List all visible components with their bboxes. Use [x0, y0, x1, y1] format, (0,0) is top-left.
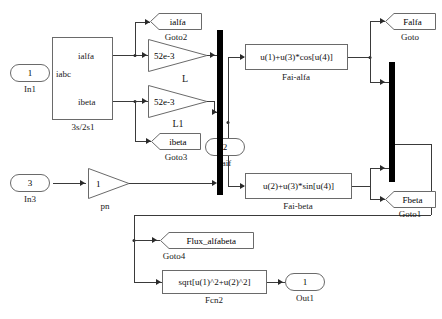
- fcn-block-fcn2-expr: sqrt[u(1)^2+u(2)^2]: [178, 277, 250, 287]
- output-port-out1-label: Out1: [296, 293, 314, 303]
- arrow-mux2-in1: [380, 79, 385, 85]
- goto-tag-fbeta-text: Fbeta: [403, 195, 423, 205]
- gain-L-label: L: [182, 74, 188, 84]
- gain-L-value: 52e-3: [154, 51, 175, 61]
- fcn-block-fai-beta-expr: u(2)+u(3)*sin[u(4)]: [263, 181, 334, 191]
- fcn-block-fai-alfa[interactable]: u(1)+u(3)*cos[u(4)]: [245, 44, 348, 70]
- mux-block-1[interactable]: [217, 30, 223, 195]
- goto-tag-flux-alfabeta-text: Flux_alfabeta: [187, 236, 236, 246]
- wire-falfa-down: [370, 57, 371, 82]
- subsystem-label: 3s/2s1: [71, 122, 94, 132]
- goto-tag-flux-alfabeta[interactable]: Flux_alfabeta: [160, 232, 254, 249]
- input-port-in3-number: 3: [28, 178, 33, 188]
- wire-faibeta-out: [352, 186, 370, 187]
- wire-feedback-v: [134, 215, 135, 240]
- gain-L1-value: 52e-3: [154, 97, 175, 107]
- goto-tag-ibeta-text: ibeta: [169, 137, 187, 147]
- arrow-mux2-in2: [380, 165, 385, 171]
- gain-block-L[interactable]: 52e-3: [148, 39, 208, 72]
- gain-block-pn[interactable]: 1: [88, 168, 130, 199]
- output-port-out1[interactable]: 1: [285, 273, 325, 291]
- fcn-block-fcn2[interactable]: sqrt[u(1)^2+u(2)^2]: [162, 270, 267, 294]
- input-port-in1-label: In1: [24, 84, 36, 94]
- gain-pn-value: 1: [96, 179, 101, 189]
- gain-L1-label: L1: [172, 119, 183, 129]
- input-port-faif-number: 2: [223, 142, 228, 152]
- subsystem-port-ibeta: ibeta: [78, 97, 96, 107]
- arrow-gain-L1: [142, 98, 147, 104]
- wire-ibeta-down: [135, 101, 136, 141]
- goto-label: Goto: [401, 32, 419, 42]
- wire-falfa-up: [370, 21, 371, 57]
- arrow-gain-L: [142, 52, 147, 58]
- fcn-block-fai-alfa-expr: u(1)+u(3)*cos[u(4)]: [260, 52, 333, 62]
- wire-ialfa-up: [135, 22, 136, 55]
- arrow-pn: [80, 180, 85, 186]
- input-port-in3[interactable]: 3: [10, 174, 50, 192]
- output-port-out1-number: 1: [303, 277, 308, 287]
- wire-feedback-h: [134, 215, 431, 216]
- arrow-out1: [278, 279, 283, 285]
- fcn-block-fai-beta-label: Fai-beta: [283, 201, 313, 211]
- fcn-block-fai-beta[interactable]: u(2)+u(3)*sin[u(4)]: [245, 173, 352, 199]
- input-port-faif[interactable]: 2: [205, 138, 245, 156]
- gain-block-L1[interactable]: 52e-3: [148, 85, 208, 118]
- mux-block-2[interactable]: [389, 62, 395, 182]
- goto-tag-falfa-text: Falfa: [403, 17, 422, 27]
- wire-pn-to-mux: [128, 183, 215, 184]
- subsystem-port-iabc: iabc: [56, 69, 71, 79]
- wire-down-to-fcn2: [134, 240, 135, 282]
- wire-faialfa-out: [348, 57, 370, 58]
- fcn-block-fai-alfa-label: Fai-alfa: [282, 72, 310, 82]
- wire-fbeta-up: [370, 168, 371, 186]
- goto-tag-fbeta[interactable]: Fbeta: [385, 191, 436, 208]
- arrow-mux-in1: [210, 52, 215, 58]
- goto-tag-ialfa-text: ialfa: [170, 17, 186, 27]
- input-port-in3-label: In3: [24, 194, 36, 204]
- fcn-block-fcn2-label: Fcn2: [205, 295, 223, 305]
- goto4-label: Goto4: [163, 251, 186, 261]
- goto-tag-ibeta[interactable]: ibeta: [151, 133, 201, 150]
- wire-mux2-out-h: [395, 144, 431, 145]
- subsystem-port-ialfa: ialfa: [78, 51, 94, 61]
- goto-tag-ialfa[interactable]: ialfa: [150, 13, 202, 30]
- arrow-goto4: [152, 237, 157, 243]
- input-port-in1[interactable]: 1: [10, 64, 50, 82]
- goto1-label: Goto1: [399, 209, 422, 219]
- wire-mux1-out-v: [228, 57, 229, 122]
- block-diagram-canvas: 1 In1 iabc ialfa ibeta 3s/2s1 ialfa Goto…: [0, 0, 442, 319]
- wire-fbeta-down: [370, 186, 371, 199]
- arrow-fcn2-in: [156, 279, 161, 285]
- gain-pn-label: pn: [101, 201, 110, 211]
- input-port-in1-number: 1: [28, 68, 33, 78]
- goto3-label: Goto3: [165, 152, 188, 162]
- goto-tag-falfa[interactable]: Falfa: [385, 13, 436, 30]
